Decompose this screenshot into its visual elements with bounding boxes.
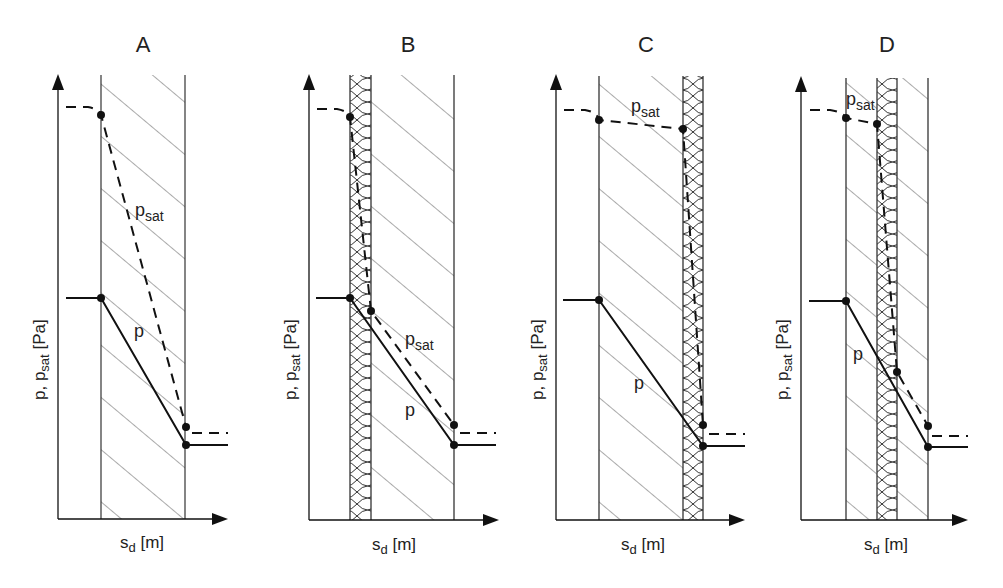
masonry-layer-outer — [897, 78, 928, 520]
x-axis-arrow-icon — [952, 514, 968, 526]
p-label: p — [405, 400, 415, 420]
y-axis-arrow-icon — [550, 74, 562, 90]
x-axis-label: sd [m] — [372, 535, 416, 557]
masonry-layer-inner — [846, 78, 877, 520]
y-axis-label: p, psat [Pa] — [528, 319, 550, 400]
panel-b: B psat p p, psat [Pa] sd [m] — [281, 32, 499, 557]
panel-a: A psat p p, psat [Pa] sd [m] — [30, 32, 228, 555]
masonry-layer — [371, 75, 454, 520]
insulation-layer — [877, 78, 897, 520]
y-axis-label: p, psat [Pa] — [30, 319, 52, 400]
p-label: p — [853, 344, 863, 364]
x-axis-arrow-icon — [483, 514, 499, 526]
panel-title: B — [401, 32, 416, 57]
panel-d: D psat p p, psat [Pa] sd [m] — [773, 32, 968, 557]
panel-title: A — [136, 32, 151, 57]
panel-title: D — [879, 32, 895, 57]
y-axis-arrow-icon — [303, 74, 315, 90]
p-label: p — [134, 321, 144, 341]
insulation-layer — [683, 76, 703, 520]
y-axis-label: p, psat [Pa] — [773, 319, 795, 400]
masonry-layer — [599, 76, 683, 520]
y-axis-arrow-icon — [52, 74, 64, 90]
x-axis-label: sd [m] — [864, 535, 908, 557]
diagram-canvas: A psat p p, psat [Pa] sd [m] B — [0, 0, 1003, 588]
y-axis-arrow-icon — [795, 76, 807, 92]
x-axis-arrow-icon — [212, 513, 228, 525]
panel-title: C — [638, 32, 654, 57]
masonry-layer — [101, 75, 185, 519]
x-axis-label: sd [m] — [621, 535, 665, 557]
x-axis-arrow-icon — [729, 514, 745, 526]
p-label: p — [634, 373, 644, 393]
y-axis-label: p, psat [Pa] — [281, 319, 303, 400]
x-axis-label: sd [m] — [120, 533, 164, 555]
panel-c: C psat p p, psat [Pa] sd [m] — [528, 32, 745, 557]
